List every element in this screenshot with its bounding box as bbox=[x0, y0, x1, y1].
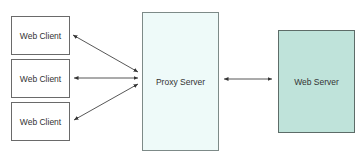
web-client-2: Web Client bbox=[11, 59, 70, 98]
web-client-1: Web Client bbox=[11, 16, 70, 55]
proxy-server-label: Proxy Server bbox=[156, 77, 205, 87]
web-client-1-label: Web Client bbox=[20, 31, 61, 41]
web-client-3: Web Client bbox=[11, 102, 70, 141]
web-server: Web Server bbox=[278, 30, 355, 133]
web-server-label: Web Server bbox=[294, 77, 339, 87]
web-client-3-label: Web Client bbox=[20, 117, 61, 127]
web-client-2-label: Web Client bbox=[20, 74, 61, 84]
proxy-server: Proxy Server bbox=[142, 12, 219, 151]
arrow-client1-proxy bbox=[73, 35, 138, 72]
arrow-client3-proxy bbox=[74, 84, 138, 120]
